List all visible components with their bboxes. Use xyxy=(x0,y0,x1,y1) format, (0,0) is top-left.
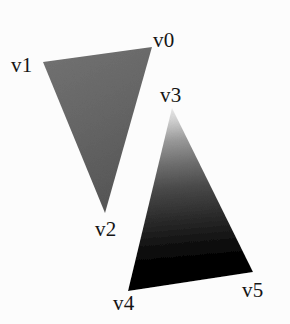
vertex-label-v5: v5 xyxy=(242,280,263,301)
right-triangle xyxy=(128,108,253,291)
render-canvas: v0 v1 v2 v3 v4 v5 xyxy=(0,0,290,324)
vertex-label-v2: v2 xyxy=(95,219,116,240)
vertex-label-v1: v1 xyxy=(11,55,32,76)
triangle-render-surface xyxy=(0,0,290,324)
vertex-label-v0: v0 xyxy=(153,30,174,51)
left-triangle xyxy=(43,47,152,213)
vertex-label-v3: v3 xyxy=(160,85,181,106)
vertex-label-v4: v4 xyxy=(113,293,134,314)
